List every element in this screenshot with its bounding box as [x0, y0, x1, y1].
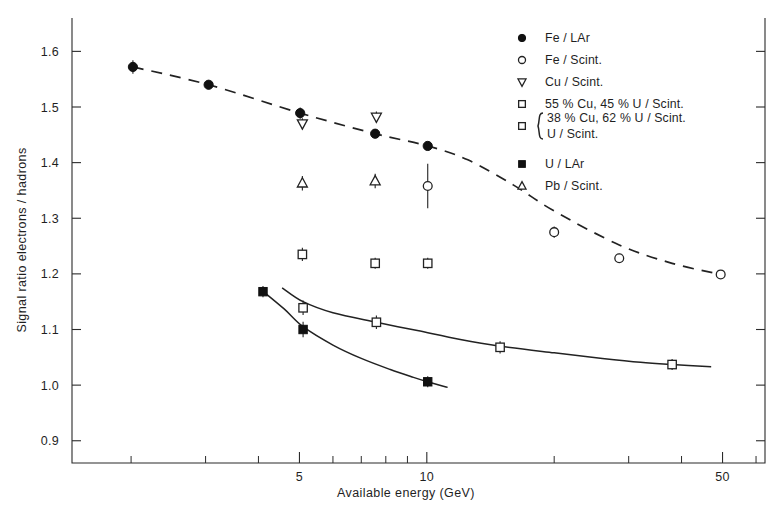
open-circle-marker: [550, 228, 559, 237]
x-tick-label: 50: [715, 470, 730, 484]
series-0: [128, 60, 432, 150]
series-2: [297, 111, 381, 129]
open-square-marker: [371, 259, 379, 267]
up-triangle-marker: [297, 178, 307, 187]
filled-circle-marker: [296, 109, 305, 118]
up-triangle-marker: [518, 182, 526, 189]
filled-square-marker: [519, 161, 526, 168]
open-circle-marker: [518, 56, 525, 63]
scatter-plot-svg: 0.91.01.11.21.31.41.51.651050 Fe / LArFe…: [0, 0, 782, 515]
filled-square-marker: [299, 325, 307, 333]
y-tick-label: 1.4: [41, 156, 59, 170]
legend-label: Pb / Scint.: [545, 179, 603, 193]
y-tick-label: 0.9: [41, 434, 59, 448]
x-tick-label: 5: [296, 470, 303, 484]
filled-square-marker: [259, 287, 267, 295]
x-tick-label: 10: [420, 470, 435, 484]
figure-root: 0.91.01.11.21.31.41.51.651050 Fe / LArFe…: [0, 0, 782, 515]
open-circle-marker: [716, 270, 725, 279]
legend-item-2[interactable]: Cu / Scint.: [518, 75, 603, 89]
open-square-marker: [668, 360, 676, 368]
legend-label: U / LAr: [545, 157, 584, 171]
legend-label: Cu / Scint.: [545, 75, 603, 89]
open-square-marker: [298, 250, 306, 258]
legend-brace: [538, 113, 543, 139]
legend-item-6[interactable]: Pb / Scint.: [518, 179, 603, 193]
legend-label: Fe / LAr: [545, 31, 590, 45]
series-3: [298, 248, 432, 269]
down-triangle-marker: [371, 113, 381, 122]
series-5: [259, 286, 432, 387]
legend-item-4[interactable]: 38 % Cu, 62 % U / Scint.U / Scint.: [519, 111, 686, 141]
y-tick-label: 1.6: [41, 45, 59, 59]
legend-item-5[interactable]: U / LAr: [519, 157, 585, 171]
y-tick-label: 1.0: [41, 379, 59, 393]
open-square-marker: [424, 259, 432, 267]
open-square-marker: [299, 304, 307, 312]
filled-circle-marker: [371, 129, 380, 138]
y-tick-label: 1.2: [41, 267, 59, 281]
cu-u-solid-curve: [282, 288, 711, 367]
up-triangle-marker: [370, 176, 380, 185]
x-axis-title: Available energy (GeV): [337, 486, 475, 500]
y-tick-label: 1.1: [41, 323, 59, 337]
filled-circle-marker: [128, 62, 137, 71]
open-circle-marker: [615, 254, 624, 263]
filled-circle-marker: [204, 80, 213, 89]
legend-label: 38 % Cu, 62 % U / Scint.: [547, 111, 686, 125]
legend-label: 55 % Cu, 45 % U / Scint.: [545, 97, 684, 111]
plot-frame: [72, 18, 765, 463]
legend-label: Fe / Scint.: [545, 53, 602, 67]
open-circle-marker: [423, 182, 432, 191]
y-axis-title: Signal ratio electrons / hadrons: [15, 147, 29, 332]
u-lar-solid-curve: [261, 289, 448, 387]
down-triangle-marker: [518, 79, 526, 86]
open-square-marker: [372, 318, 380, 326]
open-square-marker: [519, 123, 526, 130]
open-square-marker: [519, 101, 526, 108]
y-tick-label: 1.3: [41, 212, 59, 226]
legend-item-3[interactable]: 55 % Cu, 45 % U / Scint.: [519, 97, 684, 111]
y-tick-label: 1.5: [41, 101, 59, 115]
down-triangle-marker: [297, 120, 307, 129]
legend-item-1[interactable]: Fe / Scint.: [518, 53, 602, 67]
filled-circle-marker: [423, 141, 432, 150]
legend-item-0[interactable]: Fe / LAr: [518, 31, 590, 45]
legend-label-secondary: U / Scint.: [547, 127, 598, 141]
legend: Fe / LArFe / Scint.Cu / Scint.55 % Cu, 4…: [518, 31, 686, 193]
filled-circle-marker: [518, 34, 525, 41]
open-square-marker: [496, 343, 504, 351]
series-6: [297, 174, 380, 191]
filled-square-marker: [424, 378, 432, 386]
